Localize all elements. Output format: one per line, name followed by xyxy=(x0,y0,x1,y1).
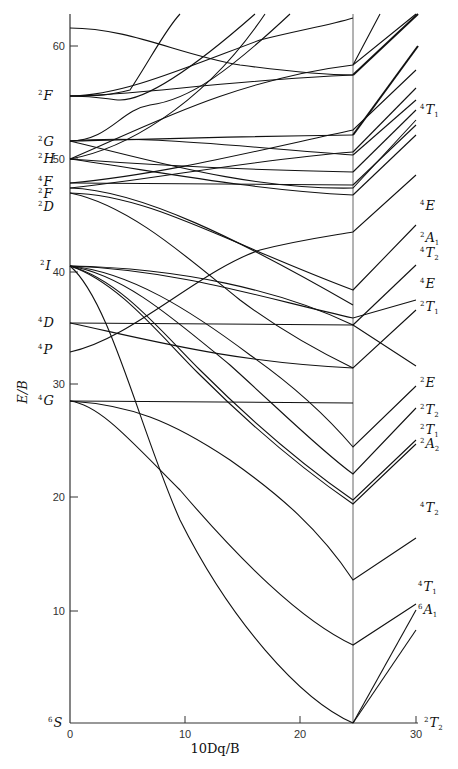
y-tick-label: 30 xyxy=(53,378,65,390)
curve-2G-b xyxy=(70,139,353,155)
curve-2E xyxy=(70,266,416,447)
y-tick-label: 40 xyxy=(53,266,65,278)
term-label-2T2-ground: 2T2 xyxy=(424,715,443,732)
x-tick-label: 0 xyxy=(67,728,73,740)
term-label-4D: 4D xyxy=(38,315,54,330)
term-label-4E: 4E xyxy=(420,276,435,291)
curve-4E-from-4D xyxy=(70,323,353,325)
term-label-2E: 2E xyxy=(420,375,435,390)
term-label-4P: 4P xyxy=(38,342,52,357)
right-term-labels: 4T1 4E 2A1 4T2 4E 2T1 2E 2T2 2T1 2A2 4T2… xyxy=(418,102,443,732)
x-tick-label: 10 xyxy=(179,728,191,740)
energy-curves xyxy=(70,14,418,723)
y-ticks: 10 20 30 40 50 60 xyxy=(53,40,78,617)
curve-2G-flat xyxy=(70,135,353,141)
curve-4T1-from-4P xyxy=(70,175,416,352)
tanabe-sugano-chart: 10 20 30 40 50 60 0 10 20 30 10Dq/B E/B xyxy=(0,0,458,769)
curve-2H-a xyxy=(70,159,353,195)
term-label-6A1: 6A1 xyxy=(418,602,437,619)
y-axis-title: E/B xyxy=(15,380,30,404)
term-label-2T1-upper: 2T1 xyxy=(420,299,439,316)
y-tick-label: 60 xyxy=(53,40,65,52)
term-label-4T1-top: 4T1 xyxy=(420,102,439,119)
term-label-4G: 4G xyxy=(38,393,54,408)
term-label-2T2: 2T2 xyxy=(420,402,439,419)
term-label-6S: 6S xyxy=(48,715,62,730)
curve-6A1 xyxy=(353,610,416,723)
left-term-labels: 2F 2G 2H 4F 2F 2D 2I 4D 4P 4G 6S xyxy=(38,88,62,730)
x-axis-title: 10Dq/B xyxy=(190,741,239,756)
term-label-2F: 2F xyxy=(38,88,53,103)
term-label-2G: 2G xyxy=(38,134,54,149)
x-tick-label: 30 xyxy=(410,728,422,740)
curve-2F-upper-a xyxy=(70,14,255,100)
curve-4T2-from-4D xyxy=(70,310,416,368)
curve-2D-b xyxy=(70,193,416,290)
curve-2T1 xyxy=(70,266,416,500)
y-tick-label: 20 xyxy=(53,491,65,503)
term-label-4T2-top: 4T2 xyxy=(420,245,439,262)
y-tick-label: 10 xyxy=(53,605,65,617)
term-label-2I: 2I xyxy=(40,258,51,273)
curve-2T2-ground xyxy=(70,266,353,723)
term-label-2H: 2H xyxy=(38,151,55,166)
curve-2F-b xyxy=(70,152,353,188)
x-tick-label: 20 xyxy=(294,728,306,740)
curve-top xyxy=(70,28,353,75)
term-label-4T1: 4T1 xyxy=(418,579,437,596)
curve-4F-rise xyxy=(70,70,416,183)
curve-2T1-upper xyxy=(70,266,416,366)
curve-2F-upper-b xyxy=(70,18,353,96)
x-ticks: 0 10 20 30 xyxy=(67,716,422,740)
curve-2A1-upper xyxy=(70,266,416,318)
curve-4T1 xyxy=(70,401,416,645)
term-label-4E-top: 4E xyxy=(420,198,435,213)
curve-2G-rise xyxy=(70,14,290,141)
term-label-2D: 2D xyxy=(38,199,54,214)
curve-4T2 xyxy=(70,401,416,580)
term-label-4T2: 4T2 xyxy=(420,500,439,517)
